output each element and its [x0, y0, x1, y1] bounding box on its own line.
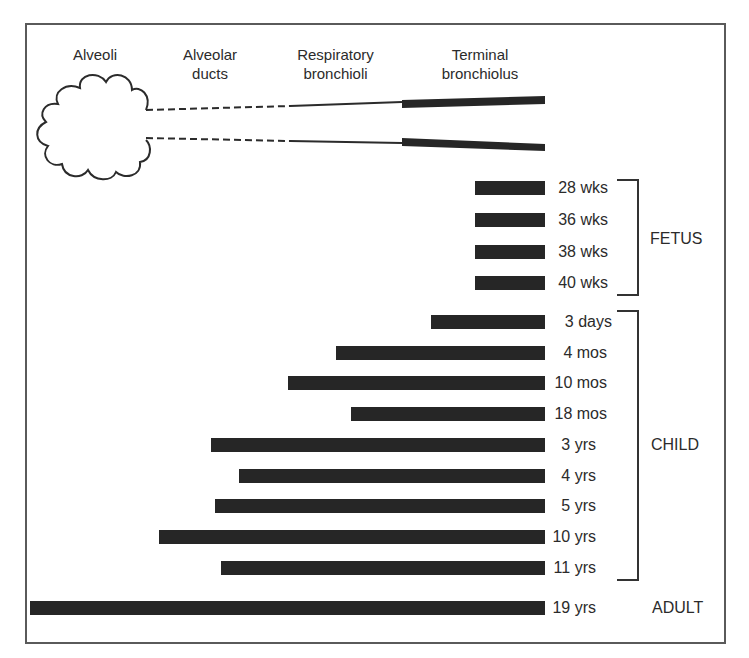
bar [211, 438, 545, 452]
row-label: 10 yrs [530, 528, 596, 546]
fetus-bracket [617, 179, 639, 296]
row-label: 36 wks [542, 211, 608, 229]
bar [351, 407, 545, 421]
row-label: 4 yrs [530, 467, 596, 485]
bar [30, 601, 545, 615]
row-label: 10 mos [541, 374, 607, 392]
bar [475, 245, 545, 259]
bar [475, 181, 545, 195]
bar [475, 213, 545, 227]
group-label-child: CHILD [651, 436, 699, 454]
row-label: 5 yrs [530, 497, 596, 515]
bar [221, 561, 545, 575]
bar [288, 376, 545, 390]
bar [215, 499, 545, 513]
group-label-adult: ADULT [652, 599, 703, 617]
row-label: 18 mos [541, 405, 607, 423]
row-label: 28 wks [542, 179, 608, 197]
alveoli-cloud-icon [37, 75, 150, 179]
group-label-fetus: FETUS [650, 230, 702, 248]
child-bracket [617, 310, 639, 581]
row-label: 38 wks [542, 243, 608, 261]
row-label: 4 mos [541, 344, 607, 362]
row-label: 11 yrs [530, 559, 596, 577]
row-label: 3 yrs [530, 436, 596, 454]
row-label: 40 wks [542, 274, 608, 292]
airway-lower-wall [146, 138, 545, 151]
bar [159, 530, 545, 544]
bar [336, 346, 545, 360]
airway-upper-wall [146, 96, 545, 110]
bar [431, 315, 545, 329]
row-label: 3 days [546, 313, 612, 331]
row-label: 19 yrs [530, 599, 596, 617]
bar [475, 276, 545, 290]
bar [239, 469, 545, 483]
